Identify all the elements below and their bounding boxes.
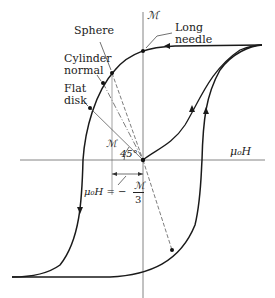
origin-point [141, 158, 145, 162]
flat-disk-point [88, 106, 92, 110]
flat-label-1: Flat [64, 83, 86, 94]
upper-branch-curve [12, 45, 262, 277]
needle-label-2: needle [175, 34, 212, 45]
cylinder-label-2: normal [64, 65, 103, 76]
equation-lhs: μ₀H = − [84, 186, 126, 197]
equation-numerator: ℳ [134, 180, 145, 191]
flat-label-2: disk [64, 95, 87, 106]
cylinder-point [101, 81, 105, 85]
equation-fraction-bar [133, 192, 144, 193]
eq-pointer [118, 176, 126, 185]
lower-branch-curve [12, 45, 262, 277]
magnetization-label: ℳ [106, 138, 117, 149]
lower-intersection-point [170, 248, 174, 252]
arrow-right-icon [203, 107, 209, 114]
load-line-extension [143, 160, 172, 250]
x-axis-label: μ₀H [230, 146, 251, 157]
arrow-left-icon [77, 207, 83, 214]
equation-denominator: 3 [135, 194, 141, 205]
sphere-label: Sphere [74, 25, 114, 36]
arrow-top-icon [164, 43, 170, 49]
y-axis-label: ℳ [147, 10, 159, 21]
dim-arrow-right-icon [138, 172, 143, 176]
dim-arrow-left-icon [112, 172, 117, 176]
cylinder-label-1: Cylinder [64, 53, 112, 64]
angle-label: 45° [120, 148, 138, 159]
long-needle-point [141, 49, 145, 53]
needle-label-1: Long [175, 22, 203, 33]
sphere-point [110, 71, 114, 75]
